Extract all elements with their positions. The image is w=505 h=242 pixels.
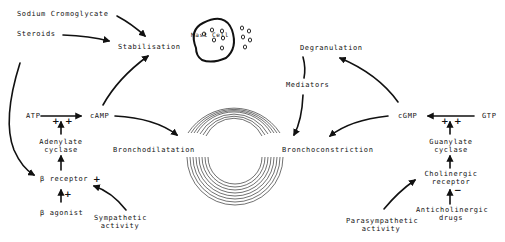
label-bronchoconstriction: Bronchoconstriction [282,146,373,154]
label-adenylate-line2: cyclase [38,146,84,154]
arrow-steroids-stabilisation [63,35,109,41]
mast-cell-icon [194,19,252,62]
label-anticholinergic-line1: Anticholinergic [416,206,486,214]
label-cholinergic-receptor: Cholinergic receptor [424,170,478,186]
label-sympathetic-line2: activity [94,222,146,230]
plus-sign-adenylate-left: + [52,117,60,126]
bronchus-cross-section-icon [187,108,283,205]
label-cgmp: cGMP [398,112,417,120]
label-gtp: GTP [482,112,496,120]
label-atp: ATP [26,112,40,120]
label-beta-agonist: β agonist [40,209,83,217]
label-adenylate-line1: Adenylate [38,138,84,146]
label-guanylate-line2: cyclase [428,146,474,154]
arrow-mediators-bronchoconstriction [294,95,303,135]
arrow-sympathetic-beta [94,186,126,210]
line-degranulation-mediators [303,57,305,78]
label-guanylate-cyclase: Guanylate cyclase [428,138,474,154]
label-anticholinergic-line2: drugs [416,214,486,222]
label-stabilisation: Stabilisation [118,43,181,51]
plus-sign-guanylate-right: + [454,117,462,126]
plus-sign-adenylate-right: + [65,117,73,126]
label-cholinergic-line2: receptor [424,178,478,186]
label-mast-cell: Mast Cell [191,31,229,39]
label-sympathetic-line1: Sympathetic [94,214,146,222]
arrow-camp-bronchodilatation [115,116,177,135]
minus-sign-anticholinergic: − [454,186,462,195]
label-parasympathetic-line1: Parasympathetic [346,217,416,225]
label-parasympathetic-activity: Parasympathetic activity [346,217,416,233]
arrow-cgmp-bronchoconstriction [330,116,388,136]
label-camp: cAMP [90,112,109,120]
label-adenylate-cyclase: Adenylate cyclase [38,138,84,154]
label-sodium-cromoglycate: Sodium Cromoglycate [17,10,108,18]
arrow-cromoglycate-stabilisation [117,16,145,36]
label-guanylate-line1: Guanylate [428,138,474,146]
label-steroids: Steroids [17,30,56,38]
plus-sign-beta-agonist: + [64,190,72,199]
label-mediators: Mediators [286,81,329,89]
pathway-diagram: Sodium Cromoglycate Steroids Stabilisati… [0,0,505,242]
label-parasympathetic-line2: activity [346,225,416,233]
label-degranulation: Degranulation [300,44,363,52]
label-beta-receptor: β receptor [40,175,88,183]
label-sympathetic-activity: Sympathetic activity [94,214,146,230]
arrow-parasympathetic-cholinergic [384,180,415,209]
arrow-cgmp-degranulation [340,58,398,102]
plus-sign-guanylate-left: + [441,117,449,126]
label-cholinergic-line1: Cholinergic [424,170,478,178]
label-bronchodilatation: Bronchodilatation [113,146,195,154]
plus-sign-sympathetic: + [93,175,101,184]
arrow-camp-stabilisation [103,56,148,105]
label-anticholinergic-drugs: Anticholinergic drugs [416,206,486,222]
